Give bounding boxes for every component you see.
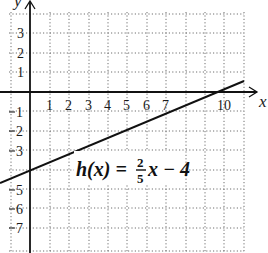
- x-axis-label: x: [258, 92, 267, 111]
- y-tick: 7: [16, 221, 23, 236]
- y-tick: 2: [17, 46, 24, 61]
- y-tick: 3: [16, 144, 23, 159]
- x-tick: 1: [46, 98, 53, 113]
- coordinate-plane: x y 1 2 3 4 5 6 7 10 3 2 1 1 2 3 5 6 7 h…: [0, 0, 268, 253]
- y-tick: 6: [16, 202, 23, 217]
- y-tick: 1: [16, 105, 23, 120]
- y-axis-label: y: [12, 0, 22, 10]
- equation-label: h(x) = 2 5 x − 4: [74, 151, 190, 186]
- equation-frac-num: 2: [137, 155, 144, 170]
- x-tick: 6: [143, 98, 150, 113]
- y-tick: 2: [16, 124, 23, 139]
- y-tick-labels-positive: 3 2 1: [17, 26, 24, 80]
- x-tick: 5: [123, 98, 130, 113]
- x-tick: 10: [217, 98, 231, 113]
- grid: [9, 12, 244, 252]
- axes: [0, 1, 257, 253]
- y-tick: 3: [17, 26, 24, 41]
- y-tick: 1: [17, 65, 24, 80]
- equation-frac-den: 5: [137, 171, 144, 186]
- equation-rhs: x − 4: [147, 158, 190, 180]
- x-tick: 7: [162, 98, 169, 113]
- x-tick: 2: [65, 98, 72, 113]
- x-tick: 4: [104, 98, 111, 113]
- y-tick: 5: [16, 183, 23, 198]
- x-tick: 3: [85, 98, 92, 113]
- equation-lhs: h(x) =: [76, 158, 127, 181]
